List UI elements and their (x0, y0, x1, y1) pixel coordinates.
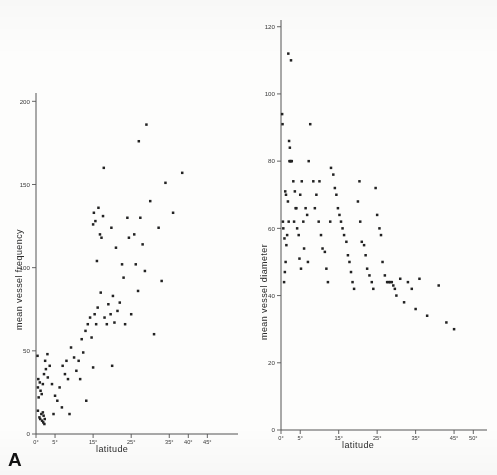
figure-container: 050100150200 0°5°15°25°35°40°45° latitud… (0, 0, 497, 475)
svg-text:0: 0 (272, 426, 276, 433)
panel-b: 020406080100120 0°5°15°25°35°45°50° lati… (249, 0, 497, 475)
data-points-b (281, 52, 455, 330)
svg-text:40: 40 (268, 292, 275, 299)
y-axis-title-b: mean vessel diameter (259, 244, 269, 340)
svg-text:0°: 0° (33, 439, 38, 445)
svg-text:5°: 5° (298, 435, 303, 441)
data-points-a (36, 123, 183, 425)
svg-text:0°: 0° (278, 435, 283, 441)
svg-text:150: 150 (20, 181, 31, 188)
svg-text:100: 100 (265, 90, 276, 97)
y-axis-title-a: mean vessel frequency (14, 229, 24, 330)
scatter-plot-a: 050100150200 0°5°15°25°35°40°45° (0, 0, 248, 475)
svg-text:40°: 40° (184, 439, 192, 445)
svg-text:50: 50 (23, 347, 30, 354)
panel-a: 050100150200 0°5°15°25°35°40°45° latitud… (0, 0, 248, 475)
svg-text:45°: 45° (450, 435, 458, 441)
x-ticks-b: 0°5°15°25°35°45°50° (278, 430, 477, 441)
x-axis-title-a: latitude (96, 444, 128, 454)
y-ticks-b: 020406080100120 (265, 23, 281, 433)
svg-text:45°: 45° (203, 439, 211, 445)
x-axis-title-b: latitude (342, 440, 374, 450)
svg-text:120: 120 (265, 23, 276, 30)
panel-letter-a: A (8, 449, 22, 471)
axes-b (281, 20, 487, 430)
svg-text:80: 80 (268, 157, 275, 164)
svg-text:50°: 50° (469, 435, 477, 441)
svg-text:35°: 35° (411, 435, 419, 441)
scatter-plot-b: 020406080100120 0°5°15°25°35°45°50° (249, 0, 497, 475)
svg-text:60: 60 (268, 225, 275, 232)
svg-text:35°: 35° (165, 439, 173, 445)
svg-text:20: 20 (268, 359, 275, 366)
svg-text:0: 0 (27, 430, 31, 437)
svg-text:5°: 5° (52, 439, 57, 445)
svg-text:200: 200 (20, 98, 31, 105)
